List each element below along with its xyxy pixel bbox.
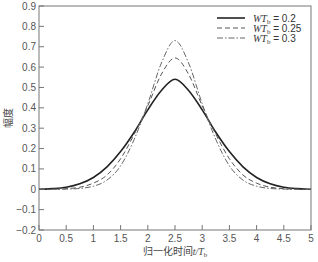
y-tick-label: −0.1 — [16, 204, 36, 215]
y-tick-label: 0.4 — [22, 102, 36, 113]
y-axis: −0.2−0.100.10.20.30.40.50.60.70.80.9 — [16, 1, 44, 236]
x-tick-label: 4 — [254, 233, 260, 244]
x-tick-label: 1.5 — [114, 233, 128, 244]
y-tick-label: 0.5 — [22, 82, 36, 93]
x-tick-label: 2 — [145, 233, 151, 244]
series-line-dashdot — [39, 41, 311, 190]
x-tick-label: 4.5 — [277, 233, 291, 244]
x-tick-label: 1 — [91, 233, 97, 244]
series-line-solid — [39, 79, 311, 189]
y-tick-label: 0.1 — [22, 163, 36, 174]
x-axis: 00.511.522.533.544.55 — [36, 225, 314, 244]
y-tick-label: 0.9 — [22, 1, 36, 12]
series-line-dashed — [39, 58, 311, 189]
y-tick-label: −0.2 — [16, 225, 36, 236]
x-tick-label: 3.5 — [222, 233, 236, 244]
gaussian-pulse-chart: −0.2−0.100.10.20.30.40.50.60.70.80.9 00.… — [0, 0, 318, 262]
x-tick-label: 0.5 — [59, 233, 73, 244]
x-tick-label: 0 — [36, 233, 42, 244]
x-tick-label: 5 — [308, 233, 314, 244]
y-tick-label: 0.3 — [22, 123, 36, 134]
x-axis-label-sub: b — [204, 251, 208, 259]
y-tick-label: 0 — [30, 184, 36, 195]
y-tick-label: 0.7 — [22, 41, 36, 52]
x-axis-label: 归一化时间t/Tb — [143, 245, 208, 259]
legend-label: WTb = 0.3 — [253, 33, 296, 46]
y-tick-label: 0.2 — [22, 143, 36, 154]
x-tick-label: 2.5 — [168, 233, 182, 244]
legend: WTb = 0.2WTb = 0.25WTb = 0.3 — [217, 13, 302, 46]
y-axis-label: 幅度 — [2, 108, 14, 128]
y-tick-label: 0.6 — [22, 62, 36, 73]
x-tick-label: 3 — [199, 233, 205, 244]
x-axis-label-main: 归一化时间 — [143, 245, 193, 257]
y-tick-label: 0.8 — [22, 21, 36, 32]
series-layer — [39, 41, 311, 190]
